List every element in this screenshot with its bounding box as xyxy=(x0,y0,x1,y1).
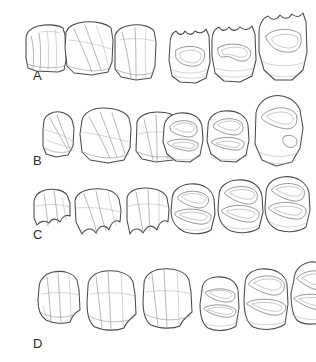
panel-d-lateral-tooth-3 xyxy=(143,269,192,328)
panel-d-lateral-tooth-1 xyxy=(38,271,80,323)
panel-b-lateral-tooth-2 xyxy=(80,108,131,163)
panel-label-c: C xyxy=(33,228,43,241)
panel-c-occlusal-group xyxy=(171,177,310,234)
tooth-figure-svg xyxy=(0,0,316,362)
panel-b-lateral-group xyxy=(43,108,179,163)
panel-d-occlusal-tooth-1 xyxy=(200,277,239,331)
panel-a-occlusal-tooth-1 xyxy=(169,29,210,83)
panel-b-occlusal-tooth-1 xyxy=(163,113,203,162)
panel-c-occlusal-tooth-2 xyxy=(218,180,263,233)
panel-d-lateral-group xyxy=(38,269,192,330)
panel-label-a: A xyxy=(33,69,42,82)
panel-a-lateral-tooth-1 xyxy=(26,25,66,72)
panel-label-d: D xyxy=(33,337,43,350)
panel-c-occlusal-tooth-3 xyxy=(265,177,310,232)
panel-d-lateral-tooth-2 xyxy=(87,271,136,330)
panel-a-lateral-tooth-2 xyxy=(65,22,113,75)
figure-root: A B C D xyxy=(0,0,316,362)
panel-a-lateral-group xyxy=(26,22,156,80)
panel-label-b: B xyxy=(33,154,42,167)
panel-b-occlusal-tooth-3 xyxy=(255,96,303,166)
